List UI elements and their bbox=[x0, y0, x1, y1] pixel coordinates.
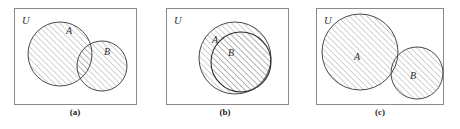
panel-a-caption: (a) bbox=[0, 107, 150, 117]
panel-c: U A B (c) bbox=[300, 0, 460, 129]
panel-b: U A B (b) bbox=[150, 0, 300, 129]
set-a-label: A bbox=[65, 25, 73, 36]
set-b-label: B bbox=[104, 46, 110, 57]
venn-diagram-figure: U A B (a) U A B (b) bbox=[0, 0, 460, 129]
panel-a: U A B (a) bbox=[0, 0, 150, 129]
set-a-label: A bbox=[353, 51, 361, 62]
panel-c-caption: (c) bbox=[300, 107, 460, 117]
set-b-label: B bbox=[228, 47, 234, 58]
panel-b-caption: (b) bbox=[150, 107, 300, 117]
set-b-label: B bbox=[410, 70, 416, 81]
set-a-label: A bbox=[211, 34, 219, 45]
